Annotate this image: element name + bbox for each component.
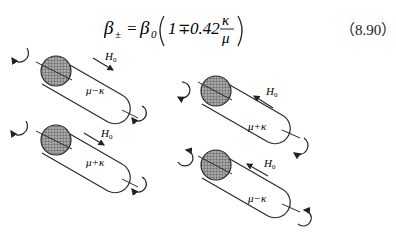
field-subscript: 0 <box>272 163 276 171</box>
mp-operator: ∓ <box>178 21 191 37</box>
field-arrow-icon <box>254 96 273 108</box>
paren-close <box>238 16 242 46</box>
field-subscript: 0 <box>113 56 117 64</box>
axis-tail <box>282 130 300 138</box>
field-subscript: 0 <box>109 133 113 141</box>
cylinder-figure: μ−κ H 0 μ+κ H 0 μ+κ H 0 μ−κ <box>0 44 396 234</box>
paren-open <box>160 16 164 46</box>
rotation-arrow-icon <box>178 150 193 166</box>
cylinder-top-right: μ+κ H 0 <box>178 76 308 155</box>
cylinder-bottom-left: μ+κ H 0 <box>11 121 146 193</box>
rotation-arrow-icon <box>298 210 311 226</box>
equation-number: （8.90） <box>340 18 396 39</box>
field-subscript: 0 <box>274 91 278 99</box>
beta-subscript-pm: ± <box>115 28 121 40</box>
rotation-arrow-icon <box>294 138 308 155</box>
cylinder-label: μ−κ <box>247 192 267 204</box>
rotation-arrow-icon <box>12 48 29 62</box>
fraction-numerator: κ <box>222 12 230 28</box>
cylinder-label: μ−κ <box>85 84 105 96</box>
one: 1 <box>168 19 177 38</box>
cylinder-bottom-right: μ−κ H 0 <box>178 150 311 226</box>
equation-8-90: β ± = β 0 1 ∓ 0.42 κ μ （8.90） <box>104 10 396 46</box>
rotation-arrow-icon <box>11 121 28 135</box>
cylinder-label: μ+κ <box>85 156 105 168</box>
axis-tail <box>282 204 300 212</box>
beta0-symbol: β <box>139 17 150 38</box>
beta0-subscript: 0 <box>151 28 157 40</box>
equals-sign: = <box>126 19 137 38</box>
cylinder-label: μ+κ <box>247 120 267 132</box>
rotation-arrow-icon <box>178 82 190 98</box>
hatched-cap <box>41 125 71 155</box>
hatched-cap <box>41 56 71 86</box>
rotation-arrow-icon <box>132 106 146 121</box>
beta-symbol: β <box>104 17 114 38</box>
coefficient: 0.42 <box>190 19 220 38</box>
cylinder-top-left: μ−κ H 0 <box>12 48 146 124</box>
